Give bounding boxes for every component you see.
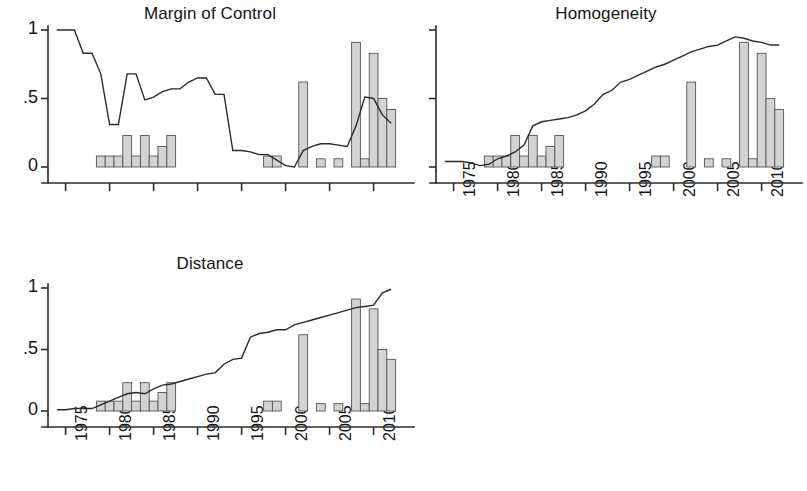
chart-panel-distance: Distance 0.51197519801985199019952000200… (0, 250, 420, 491)
bar (775, 109, 784, 167)
bar (105, 156, 114, 167)
bar (299, 82, 308, 167)
bar (378, 350, 387, 412)
bar (132, 401, 141, 411)
bar (158, 146, 167, 167)
bar (149, 156, 158, 167)
bar (740, 42, 749, 167)
bar (555, 135, 564, 167)
bar (334, 159, 343, 167)
bar (114, 156, 123, 167)
bar (272, 401, 281, 411)
trend-line (57, 30, 391, 167)
bar (687, 82, 696, 167)
bar (352, 42, 361, 167)
bar (757, 53, 766, 167)
bar (537, 156, 546, 167)
trend-line (445, 37, 779, 166)
bar (299, 335, 308, 411)
bar (546, 146, 555, 167)
bar (360, 404, 369, 411)
bar (352, 299, 361, 411)
bar (520, 156, 529, 167)
bar (264, 401, 273, 411)
bar (140, 383, 149, 411)
bar (334, 404, 343, 411)
plot-area-homogeneity (410, 0, 807, 257)
bar (123, 135, 132, 167)
bar (167, 135, 176, 167)
bar (704, 159, 713, 167)
bar (387, 359, 396, 411)
chart-panel-homogeneity: Homogeneity 1975198019851990199520002005… (410, 0, 802, 250)
bar (660, 156, 669, 167)
bar (387, 109, 396, 167)
bar (149, 401, 158, 411)
plot-area-margin-of-control (0, 0, 420, 257)
bar (316, 159, 325, 167)
bar (114, 401, 123, 411)
bar (652, 156, 661, 167)
bar (167, 383, 176, 411)
bar (369, 53, 378, 167)
bar (96, 156, 105, 167)
bar (158, 393, 167, 411)
bar (722, 159, 731, 167)
bar (140, 135, 149, 167)
bar (748, 159, 757, 167)
bar (766, 99, 775, 168)
bar (316, 404, 325, 411)
bar (132, 156, 141, 167)
trend-line (57, 289, 391, 410)
chart-panel-margin-of-control: Margin of Control 0.51 (0, 0, 420, 250)
bar (123, 383, 132, 411)
bar (360, 159, 369, 167)
bar (369, 309, 378, 411)
bar (264, 156, 273, 167)
bar (528, 135, 537, 167)
plot-area-distance (0, 250, 420, 491)
